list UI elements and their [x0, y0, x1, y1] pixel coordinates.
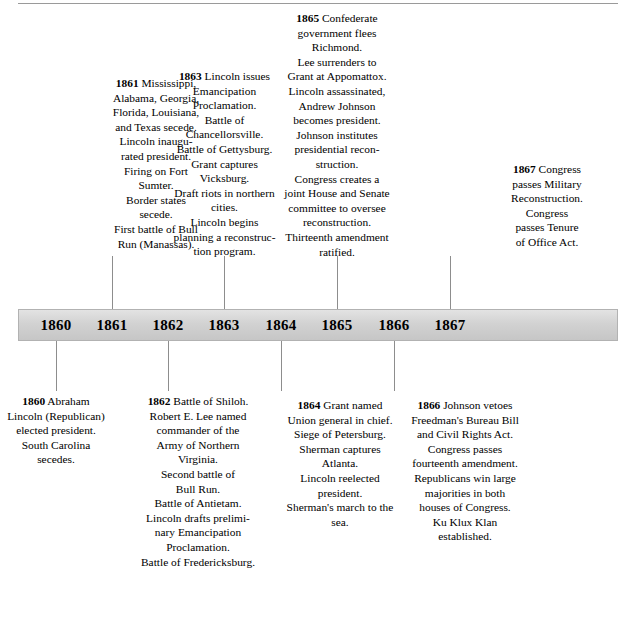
- timeline-note-1864-line-6: president.: [276, 486, 404, 501]
- timeline-note-1864-text-0: Grant named: [323, 399, 382, 411]
- timeline-note-1867-line-3: Congress: [487, 206, 607, 221]
- leader-line-1865: [337, 256, 338, 309]
- timeline-note-1861-year: 1861: [116, 77, 139, 89]
- timeline-note-1864-year: 1864: [298, 399, 321, 411]
- timeline-note-1866-line-2: and Civil Rights Act.: [394, 427, 536, 442]
- timeline-note-1862-line-6: Bull Run.: [128, 482, 268, 497]
- timeline-note-1862-line-0: 1862 Battle of Shiloh.: [128, 394, 268, 409]
- timeline-note-1865-line-15: Thirteenth amendment: [268, 230, 406, 245]
- timeline-diagram: 1861 Mississippi, Alabama, Georgia, Flor…: [0, 0, 627, 618]
- timeline-note-1866-line-6: majorities in both: [394, 486, 536, 501]
- timeline-note-1866-line-3: Congress passes: [394, 442, 536, 457]
- timeline-note-1865-line-10: struction.: [268, 157, 406, 172]
- timeline-note-1865-line-9: presidential recon-: [268, 142, 406, 157]
- leader-line-1867: [450, 256, 451, 309]
- timeline-note-1867-line-0: 1867 Congress: [487, 162, 607, 177]
- timeline-note-1860-line-4: secedes.: [0, 452, 118, 467]
- timeline-note-1862-line-3: Army of Northern: [128, 438, 268, 453]
- timeline-note-1865-line-13: committee to oversee: [268, 201, 406, 216]
- timeline-note-1865-line-5: Lincoln assassinated,: [268, 84, 406, 99]
- timeline-note-1865-line-14: reconstruction.: [268, 215, 406, 230]
- leader-line-1864: [281, 341, 282, 391]
- leader-line-1866: [394, 341, 395, 391]
- timeline-note-1860-text-0: Abraham: [47, 395, 89, 407]
- timeline-note-1864-line-0: 1864 Grant named: [276, 398, 404, 413]
- timeline-note-1862: 1862 Battle of Shiloh. Robert E. Lee nam…: [128, 394, 268, 569]
- timeline-note-1867-line-1: passes Military: [487, 177, 607, 192]
- timeline-note-1866-line-9: established.: [394, 529, 536, 544]
- timeline-note-1864-line-4: Atlanta.: [276, 456, 404, 471]
- timeline-note-1864-line-5: Lincoln reelected: [276, 471, 404, 486]
- timeline-note-1862-line-9: nary Emancipation: [128, 525, 268, 540]
- timeline-note-1867-line-4: passes Tenure: [487, 220, 607, 235]
- axis-year-1867: 1867: [410, 316, 490, 334]
- timeline-note-1863-text-0: Lincoln issues: [205, 70, 271, 82]
- timeline-note-1865-line-7: becomes president.: [268, 113, 406, 128]
- timeline-note-1862-line-5: Second battle of: [128, 467, 268, 482]
- timeline-note-1866-text-0: Johnson vetoes: [443, 399, 512, 411]
- timeline-note-1864-line-7: Sherman's march to the: [276, 500, 404, 515]
- timeline-note-1865-line-6: Andrew Johnson: [268, 99, 406, 114]
- leader-line-1860: [56, 341, 57, 391]
- timeline-note-1862-line-4: Virginia.: [128, 452, 268, 467]
- timeline-note-1860-year: 1860: [22, 395, 45, 407]
- timeline-note-1862-line-10: Proclamation.: [128, 540, 268, 555]
- timeline-note-1867-line-5: of Office Act.: [487, 235, 607, 250]
- timeline-note-1864-line-8: sea.: [276, 515, 404, 530]
- timeline-note-1866-line-8: Ku Klux Klan: [394, 515, 536, 530]
- timeline-note-1862-line-7: Battle of Antietam.: [128, 496, 268, 511]
- timeline-note-1865-line-3: Lee surrenders to: [268, 55, 406, 70]
- timeline-note-1860-line-3: South Carolina: [0, 438, 118, 453]
- timeline-note-1864-line-1: Union general in chief.: [276, 413, 404, 428]
- timeline-note-1860-line-2: elected president.: [0, 423, 118, 438]
- timeline-note-1867-line-2: Reconstruction.: [487, 191, 607, 206]
- timeline-note-1864: 1864 Grant named Union general in chief.…: [276, 398, 404, 529]
- timeline-note-1867: 1867 Congress passes Military Reconstruc…: [487, 162, 607, 250]
- timeline-note-1862-line-2: commander of the: [128, 423, 268, 438]
- page-top-rule: [18, 3, 618, 4]
- timeline-note-1865-line-8: Johnson institutes: [268, 128, 406, 143]
- timeline-note-1865-line-2: Richmond.: [268, 40, 406, 55]
- timeline-note-1864-line-3: Sherman captures: [276, 442, 404, 457]
- timeline-note-1866-line-7: houses of Congress.: [394, 500, 536, 515]
- timeline-note-1864-line-2: Siege of Petersburg.: [276, 427, 404, 442]
- timeline-note-1860-line-1: Lincoln (Republican): [0, 409, 118, 424]
- timeline-note-1862-year: 1862: [148, 395, 171, 407]
- timeline-note-1866-year: 1866: [418, 399, 441, 411]
- timeline-note-1865-text-0: Confederate: [322, 12, 378, 24]
- timeline-note-1862-line-11: Battle of Fredericksburg.: [128, 555, 268, 570]
- timeline-note-1862-text-0: Battle of Shiloh.: [173, 395, 248, 407]
- timeline-note-1865-year: 1865: [296, 12, 319, 24]
- timeline-note-1866-line-0: 1866 Johnson vetoes: [394, 398, 536, 413]
- timeline-note-1866: 1866 Johnson vetoes Freedman's Bureau Bi…: [394, 398, 536, 544]
- timeline-note-1865-line-4: Grant at Appomattox.: [268, 69, 406, 84]
- leader-line-1863: [224, 256, 225, 309]
- timeline-note-1860-line-0: 1860 Abraham: [0, 394, 118, 409]
- leader-line-1861: [112, 256, 113, 309]
- timeline-note-1862-line-1: Robert E. Lee named: [128, 409, 268, 424]
- timeline-note-1865-line-11: Congress creates a: [268, 172, 406, 187]
- timeline-note-1862-line-8: Lincoln drafts prelimi-: [128, 511, 268, 526]
- timeline-note-1866-line-4: fourteenth amendment.: [394, 456, 536, 471]
- timeline-note-1865-line-12: joint House and Senate: [268, 186, 406, 201]
- timeline-note-1860: 1860 Abraham Lincoln (Republican) electe…: [0, 394, 118, 467]
- timeline-note-1865-line-1: government flees: [268, 26, 406, 41]
- timeline-note-1867-year: 1867: [513, 163, 536, 175]
- timeline-note-1865: 1865 Confederate government flees Richmo…: [268, 11, 406, 259]
- leader-line-1862: [168, 341, 169, 391]
- timeline-note-1866-line-5: Republicans win large: [394, 471, 536, 486]
- timeline-note-1865-line-0: 1865 Confederate: [268, 11, 406, 26]
- timeline-note-1867-text-0: Congress: [539, 163, 581, 175]
- timeline-note-1863-year: 1863: [179, 70, 202, 82]
- timeline-note-1866-line-1: Freedman's Bureau Bill: [394, 413, 536, 428]
